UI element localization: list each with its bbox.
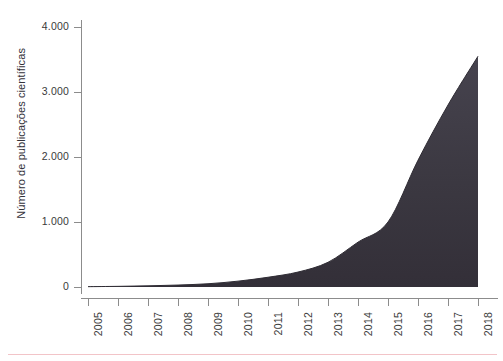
y-tick-label: 4.000 (42, 21, 69, 32)
x-tick-mark (118, 299, 119, 306)
x-tick-mark (328, 299, 329, 306)
x-tick-label: 2005 (93, 312, 104, 336)
x-tick-label: 2013 (333, 312, 344, 336)
y-axis-title: Número de publicações científicas (16, 48, 27, 219)
footer-rule (8, 354, 497, 355)
x-tick-label: 2008 (183, 312, 194, 336)
x-tick-mark (88, 299, 89, 306)
x-tick-label: 2010 (243, 312, 254, 336)
y-axis-spine (81, 20, 82, 294)
y-tick-mark (74, 27, 81, 28)
x-tick-mark (388, 299, 389, 306)
area-fill-path (88, 56, 478, 287)
x-tick-mark (148, 299, 149, 306)
y-tick-mark (74, 157, 81, 158)
y-tick-label: 1.000 (42, 216, 69, 227)
x-tick-label: 2009 (213, 312, 224, 336)
chart-page: 01.0002.0003.0004.000 200520062007200820… (0, 0, 503, 361)
y-tick-mark (74, 222, 81, 223)
x-tick-label: 2015 (393, 312, 404, 336)
x-tick-mark (478, 299, 479, 306)
area-series (0, 0, 503, 361)
y-tick-label: 2.000 (42, 151, 69, 162)
x-tick-mark (448, 299, 449, 306)
y-tick-mark (74, 92, 81, 93)
x-tick-mark (178, 299, 179, 306)
x-tick-mark (358, 299, 359, 306)
x-tick-label: 2011 (273, 312, 284, 335)
x-axis-spine (81, 298, 498, 299)
x-tick-label: 2017 (453, 312, 464, 336)
plot-area: 01.0002.0003.0004.000 200520062007200820… (0, 0, 503, 361)
x-tick-mark (238, 299, 239, 306)
y-tick-mark (74, 287, 81, 288)
x-tick-label: 2016 (423, 312, 434, 336)
x-tick-label: 2018 (483, 312, 494, 336)
x-tick-label: 2006 (123, 312, 134, 336)
x-tick-mark (208, 299, 209, 306)
y-tick-label: 0 (63, 281, 69, 292)
x-tick-mark (298, 299, 299, 306)
x-tick-label: 2007 (153, 312, 164, 336)
x-tick-label: 2012 (303, 312, 314, 336)
y-tick-label: 3.000 (42, 86, 69, 97)
x-tick-label: 2014 (363, 312, 374, 336)
x-tick-mark (418, 299, 419, 306)
x-tick-mark (268, 299, 269, 306)
